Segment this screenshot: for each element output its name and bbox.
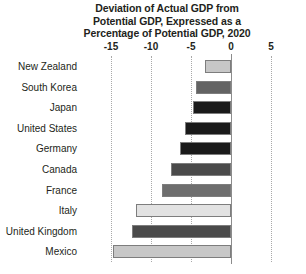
x-axis-tick-label: 0 xyxy=(228,41,234,52)
category-label-japan: Japan xyxy=(0,102,77,113)
zero-axis-line xyxy=(231,54,232,264)
category-label-new-zealand: New Zealand xyxy=(0,61,77,72)
category-label-germany: Germany xyxy=(0,143,77,154)
bar-united-states xyxy=(185,122,231,135)
x-axis-tick-label: -5 xyxy=(187,41,196,52)
chart-container: Deviation of Actual GDP from Potential G… xyxy=(0,0,306,274)
category-label-united-states: United States xyxy=(0,123,77,134)
bar-japan xyxy=(193,101,231,114)
x-axis-tick-label: 5 xyxy=(268,41,274,52)
bar-new-zealand xyxy=(205,60,231,73)
bar-south-korea xyxy=(196,81,231,94)
bar-germany xyxy=(180,142,231,155)
gridline--15 xyxy=(111,56,112,262)
plot-area: -15-10-505New ZealandSouth KoreaJapanUni… xyxy=(0,0,306,274)
category-label-mexico: Mexico xyxy=(0,246,77,257)
bar-united-kingdom xyxy=(132,225,231,238)
bar-italy xyxy=(136,204,231,217)
category-label-canada: Canada xyxy=(0,164,77,175)
x-axis-tick-label: -10 xyxy=(144,41,158,52)
x-axis-tick-label: -15 xyxy=(104,41,118,52)
category-label-united-kingdom: United Kingdom xyxy=(0,226,77,237)
gridline-5 xyxy=(271,56,272,262)
bar-canada xyxy=(171,163,231,176)
bar-mexico xyxy=(113,245,231,258)
category-label-italy: Italy xyxy=(0,205,77,216)
category-label-south-korea: South Korea xyxy=(0,82,77,93)
bar-france xyxy=(162,184,231,197)
category-label-france: France xyxy=(0,185,77,196)
